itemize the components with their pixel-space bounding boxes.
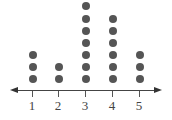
tick-label-5: 5: [132, 99, 146, 112]
right-arrow-icon: [154, 87, 162, 93]
data-dot: [82, 27, 90, 35]
data-dot: [109, 27, 117, 35]
dot-plot: 1 2 3 4 5: [0, 0, 172, 120]
tick-5: [139, 91, 140, 97]
data-dot: [109, 51, 117, 59]
data-dot: [82, 2, 90, 10]
tick-4: [112, 91, 113, 97]
data-dot: [82, 75, 90, 83]
tick-label-1: 1: [25, 99, 39, 112]
data-dot: [29, 75, 37, 83]
data-dot: [109, 75, 117, 83]
left-arrow-icon: [10, 87, 18, 93]
data-dot: [109, 63, 117, 71]
data-dot: [109, 15, 117, 23]
number-line-axis: [14, 90, 158, 91]
tick-2: [58, 91, 59, 97]
data-dot: [29, 51, 37, 59]
data-dot: [55, 63, 63, 71]
tick-label-2: 2: [51, 99, 65, 112]
tick-1: [32, 91, 33, 97]
data-dot: [29, 63, 37, 71]
data-dot: [82, 51, 90, 59]
data-dot: [82, 15, 90, 23]
tick-3: [85, 91, 86, 97]
tick-label-4: 4: [105, 99, 119, 112]
data-dot: [136, 75, 144, 83]
tick-label-3: 3: [78, 99, 92, 112]
data-dot: [82, 63, 90, 71]
data-dot: [55, 75, 63, 83]
data-dot: [109, 39, 117, 47]
data-dot: [136, 63, 144, 71]
data-dot: [136, 51, 144, 59]
data-dot: [82, 39, 90, 47]
